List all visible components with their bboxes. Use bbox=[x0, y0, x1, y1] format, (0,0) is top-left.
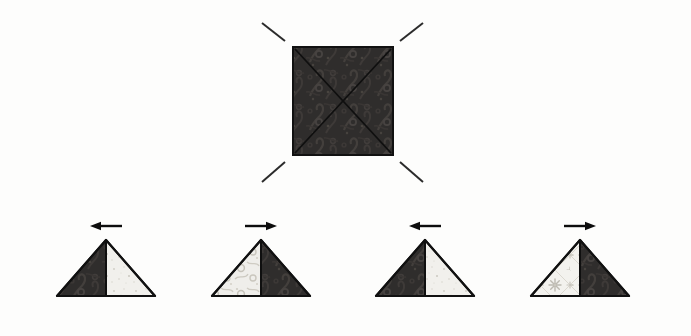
diagram-canvas bbox=[0, 0, 691, 336]
folding-diagram bbox=[0, 0, 691, 336]
